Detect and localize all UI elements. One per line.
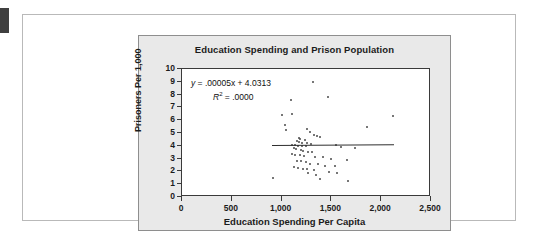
x-tick-mark (380, 196, 381, 201)
regression-equation-annotation: y = .00005x + 4.0313 (191, 78, 271, 88)
scatter-point (319, 136, 321, 138)
scatter-point (334, 165, 336, 167)
r-squared-value: = .0000 (222, 92, 253, 102)
r-squared-annotation: R2 = .0000 (213, 91, 253, 102)
y-tick-label: 6 (161, 114, 175, 124)
scatter-point (307, 172, 309, 174)
scatter-point (314, 156, 316, 158)
x-tick-mark (430, 196, 431, 201)
x-tick-mark (181, 196, 182, 201)
scatter-point (299, 138, 301, 140)
equation-body: = .00005x + 4.0313 (195, 78, 271, 88)
scatter-point (307, 151, 309, 153)
y-tick-mark (177, 119, 181, 120)
scatter-point (316, 135, 318, 137)
x-tick-mark (281, 196, 282, 201)
figure-page: Education Spending and Prison Population… (0, 0, 539, 239)
scatter-point (336, 172, 338, 174)
y-tick-mark (177, 68, 181, 69)
scatter-point (291, 113, 293, 115)
chart-title: Education Spending and Prison Population (139, 44, 450, 55)
x-tick-label: 1,000 (261, 203, 301, 213)
scatter-point (330, 158, 332, 160)
scatter-chart-panel: Education Spending and Prison Population… (138, 35, 451, 231)
x-tick-label: 0 (161, 203, 201, 213)
scatter-point (315, 174, 317, 176)
y-axis-title: Prisoners Per 1,000 (133, 48, 143, 132)
scatter-point (354, 147, 356, 149)
x-tick-label: 2,500 (410, 203, 450, 213)
scatter-point (293, 166, 295, 168)
scatter-point (313, 169, 315, 171)
scatter-point (302, 150, 304, 152)
scatter-point (300, 160, 302, 162)
scatter-point (298, 141, 300, 143)
figure-box: Education Spending and Prison Population… (22, 14, 516, 221)
y-tick-label: 8 (161, 89, 175, 99)
scatter-point (302, 168, 304, 170)
y-tick-mark (177, 170, 181, 171)
scatter-point (295, 148, 297, 150)
scatter-point (303, 155, 305, 157)
scatter-point (306, 168, 308, 170)
scatter-point (324, 165, 326, 167)
scatter-point (322, 156, 324, 158)
y-tick-label: 0 (161, 191, 175, 201)
y-tick-mark (177, 106, 181, 107)
x-tick-label: 1,500 (310, 203, 350, 213)
scatter-point (392, 115, 394, 117)
scatter-point (309, 131, 311, 133)
y-tick-mark (177, 132, 181, 133)
scatter-point (347, 180, 349, 182)
scatter-point (301, 142, 303, 144)
scatter-point (297, 167, 299, 169)
scatter-point (313, 134, 315, 136)
y-tick-mark (177, 81, 181, 82)
scatter-point (306, 128, 308, 130)
scatter-point (327, 96, 329, 98)
y-tick-label: 3 (161, 153, 175, 163)
scatter-point (311, 151, 313, 153)
x-tick-label: 2,000 (360, 203, 400, 213)
scatter-point (312, 81, 314, 83)
scatter-point (281, 114, 283, 116)
x-axis-title: Education Spending Per Capita (139, 216, 450, 227)
scatter-point (296, 160, 298, 162)
scatter-point (305, 161, 307, 163)
y-tick-mark (177, 183, 181, 184)
scatter-point (319, 178, 321, 180)
scatter-point (340, 146, 342, 148)
scatter-point (309, 163, 311, 165)
scatter-point (294, 154, 296, 156)
y-tick-label: 5 (161, 127, 175, 137)
x-tick-label: 500 (211, 203, 251, 213)
scatter-point (290, 99, 292, 101)
y-tick-mark (177, 94, 181, 95)
scatter-point (328, 171, 330, 173)
scatter-point (291, 153, 293, 155)
y-tick-label: 2 (161, 165, 175, 175)
x-tick-mark (330, 196, 331, 201)
regression-line (272, 144, 394, 146)
y-tick-mark (177, 145, 181, 146)
y-tick-mark (177, 158, 181, 159)
y-tick-label: 4 (161, 140, 175, 150)
y-tick-label: 10 (161, 63, 175, 73)
y-tick-label: 7 (161, 101, 175, 111)
scatter-point (299, 154, 301, 156)
scatter-point (366, 126, 368, 128)
scatter-point (272, 177, 274, 179)
scatter-point (284, 124, 286, 126)
scatter-point (304, 139, 306, 141)
y-tick-label: 9 (161, 76, 175, 86)
scatter-point (346, 159, 348, 161)
y-tick-label: 1 (161, 178, 175, 188)
x-tick-mark (231, 196, 232, 201)
page-margin-tab (0, 8, 9, 33)
scatter-point (285, 129, 287, 131)
scatter-point (317, 163, 319, 165)
